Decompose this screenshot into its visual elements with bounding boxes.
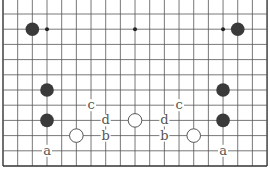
black-stone xyxy=(26,22,40,36)
star-point xyxy=(133,27,137,31)
point-label-d: d xyxy=(102,112,110,127)
point-label-a: a xyxy=(219,143,227,158)
star-point xyxy=(221,27,225,31)
white-stone xyxy=(187,129,201,143)
star-point xyxy=(45,27,49,31)
point-label-a: a xyxy=(43,143,51,158)
black-stone xyxy=(216,114,230,128)
white-stone xyxy=(128,114,142,128)
black-stone xyxy=(216,83,230,97)
point-label-c: c xyxy=(175,97,182,112)
point-label-c: c xyxy=(87,97,94,112)
black-stone xyxy=(231,22,245,36)
point-label-b: b xyxy=(160,128,168,143)
white-stone xyxy=(70,129,84,143)
point-label-b: b xyxy=(102,128,110,143)
black-stone xyxy=(40,83,54,97)
point-label-d: d xyxy=(160,112,168,127)
go-board: cdbacdba xyxy=(0,0,270,179)
black-stone xyxy=(40,114,54,128)
